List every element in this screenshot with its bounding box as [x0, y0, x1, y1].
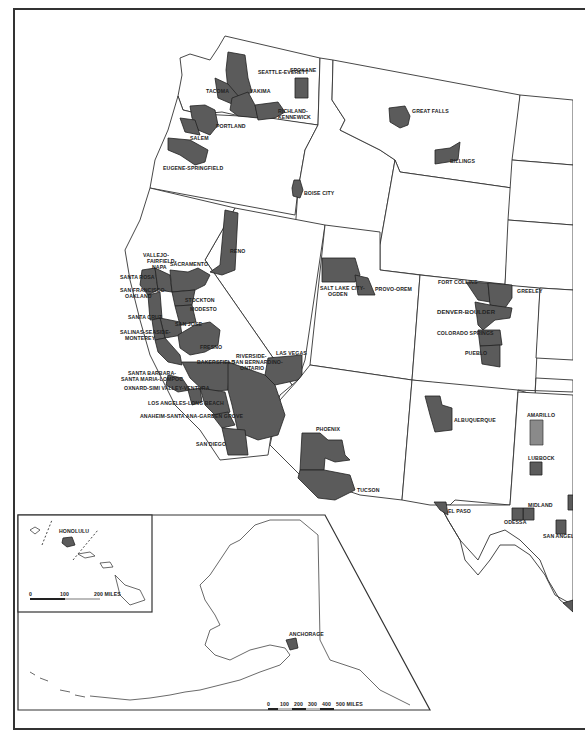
metro-pueblo [480, 345, 500, 367]
metro-salt-lake-ogden [322, 258, 360, 282]
label-santa-rosa: SANTA ROSA [120, 274, 155, 280]
metro-amarillo [530, 420, 543, 445]
label-napa: NAPA [152, 264, 167, 270]
label-san-jose: SAN JOSE [175, 321, 202, 327]
label-salem: SALEM [190, 135, 209, 141]
alaska-scale-bar-light-1 [278, 708, 292, 710]
metro-lubbock [530, 462, 542, 475]
label-boise-city: BOISE CITY [304, 190, 335, 196]
label-spokane: SPOKANE [290, 67, 317, 73]
label-fort-collins: FORT COLLINS [438, 279, 478, 285]
label-tucson: TUCSON [357, 487, 380, 493]
label-santa-maria: SANTA MARIA-LOMPOC [121, 376, 183, 382]
label-las-vegas: LAS VEGAS [276, 350, 307, 356]
label-pueblo: PUEBLO [465, 350, 487, 356]
label-billings: BILLINGS [450, 158, 475, 164]
label-colorado-springs: COLORADO SPRINGS [437, 330, 494, 336]
label-monterey: MONTEREY [125, 335, 156, 341]
alaska-scale-bar-light-2 [306, 708, 320, 710]
label-anaheim: ANAHEIM-SANTA ANA-GARDEN GROVE [140, 413, 244, 419]
state-kansas [536, 288, 573, 360]
metro-tucson [298, 470, 355, 500]
label-oakland: OAKLAND [125, 293, 152, 299]
label-phoenix: PHOENIX [316, 426, 340, 432]
label-santa-cruz: SANTA CRUZ [128, 314, 163, 320]
alaska-scale-bar-dark-2 [292, 708, 306, 710]
alaska-scale-tick-100: 100 [280, 701, 289, 707]
label-los-angeles: LOS ANGELES-LONG BEACH [148, 400, 224, 406]
label-portland: PORTLAND [216, 123, 246, 129]
label-san-diego: SAN DIEGO [196, 441, 226, 447]
label-provo: PROVO-OREM [375, 286, 412, 292]
state-north-dakota [512, 95, 573, 165]
label-reno: RENO [230, 248, 245, 254]
metro-spokane [295, 78, 308, 98]
alaska-scale-tick-500: 500 MILES [336, 701, 363, 707]
metro-san-angelo [556, 520, 566, 534]
hawaii-scale-tick-200: 200 MILES [94, 591, 121, 597]
label-kennewick: KENNEWICK [278, 114, 311, 120]
hawaii-scale-bar-dark [30, 598, 65, 600]
alaska-scale-tick-300: 300 [308, 701, 317, 707]
metro-partial-east-texas [568, 495, 573, 510]
label-sacramento: SACRAMENTO [170, 261, 208, 267]
alaska-scale-tick-0: 0 [267, 701, 270, 707]
state-nebraska [505, 220, 573, 290]
label-bakersfield: BAKERSFIELD [197, 359, 235, 365]
label-greeley: GREELEY [517, 288, 543, 294]
label-albuquerque: ALBUQUERQUE [454, 417, 496, 423]
state-south-dakota [508, 160, 573, 225]
label-el-paso: EL PASO [448, 508, 471, 514]
alaska-scale-bar-dark-3 [320, 708, 334, 710]
label-oxnard: OXNARD-SIMI VALLEY-VENTURA [124, 385, 210, 391]
label-stockton: STOCKTON [185, 297, 215, 303]
alaska-scale-tick-200: 200 [294, 701, 303, 707]
label-amarillo: AMARILLO [527, 412, 555, 418]
label-midland: MIDLAND [528, 502, 553, 508]
label-modesto: MODESTO [190, 306, 217, 312]
alaska-scale-bar-dark-1 [268, 708, 278, 710]
label-odessa: ODESSA [504, 519, 527, 525]
label-ogden: OGDEN [328, 291, 348, 297]
hawaii-scale-tick-100: 100 [60, 591, 69, 597]
label-yakima: YAKIMA [250, 88, 271, 94]
label-ontario: ONTARIO [240, 365, 264, 371]
alaska-scale-tick-400: 400 [322, 701, 331, 707]
label-great-falls: GREAT FALLS [412, 108, 449, 114]
hawaii-scale-tick-0: 0 [29, 591, 32, 597]
label-denver: DENVER-BOULDER [437, 309, 496, 315]
label-anchorage: ANCHORAGE [289, 631, 324, 637]
label-honolulu: HONOLULU [59, 528, 89, 534]
label-lubbock: LUBBOCK [528, 455, 555, 461]
hawaii-scale-bar-light [65, 598, 100, 600]
metro-el-paso [434, 502, 448, 515]
label-eugene-springfield: EUGENE-SPRINGFIELD [163, 165, 223, 171]
state-new-mexico [402, 380, 518, 505]
label-san-angelo: SAN ANGELO [543, 533, 573, 539]
label-fresno: FRESNO [200, 344, 222, 350]
label-tacoma: TACOMA [206, 88, 229, 94]
